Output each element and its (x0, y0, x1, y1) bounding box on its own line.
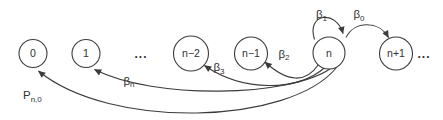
label-p-n0-sub: n,0 (31, 95, 43, 104)
label-beta2-sub: 2 (285, 53, 290, 62)
label-beta0: β0 (353, 8, 365, 23)
state-node-n-plus-1: n+1 (380, 37, 413, 70)
state-node-n: n (313, 37, 345, 69)
arrow-n-to-n-minus-1 (265, 62, 319, 78)
label-beta2: β2 (278, 48, 290, 63)
label-beta-n-sub: n (130, 80, 134, 89)
state-node-label: n−1 (242, 47, 260, 59)
state-node-label: n (326, 47, 332, 59)
self-loop-arrow-n (313, 17, 343, 39)
ellipsis-left: ... (134, 47, 147, 61)
ellipsis-right: ... (417, 47, 430, 61)
state-node-label: n+1 (387, 47, 405, 59)
arrow-n-to-n-plus-1 (346, 25, 389, 38)
state-node-label: 1 (83, 47, 89, 59)
label-p-n0: Pn,0 (23, 89, 42, 104)
label-beta-n: βn (123, 75, 134, 90)
state-node-n-minus-1: n−1 (235, 37, 268, 70)
state-node-label: n−2 (182, 47, 200, 59)
state-node-label: 0 (30, 47, 36, 59)
state-diagram-canvas: 0 1 ... n−2 n−1 n n+1 ... (0, 0, 443, 120)
state-node-0: 0 (19, 40, 47, 68)
label-beta3: β3 (213, 61, 225, 76)
state-node-n-minus-2: n−2 (174, 36, 209, 71)
label-beta1-sub: 1 (323, 14, 328, 23)
state-node-1: 1 (72, 40, 100, 68)
label-beta3-sub: 3 (220, 67, 225, 76)
label-beta0-sub: 0 (360, 14, 365, 23)
state-nodes: 0 1 ... n−2 n−1 n n+1 ... (19, 36, 431, 71)
state-diagram: 0 1 ... n−2 n−1 n n+1 ... (0, 0, 443, 120)
